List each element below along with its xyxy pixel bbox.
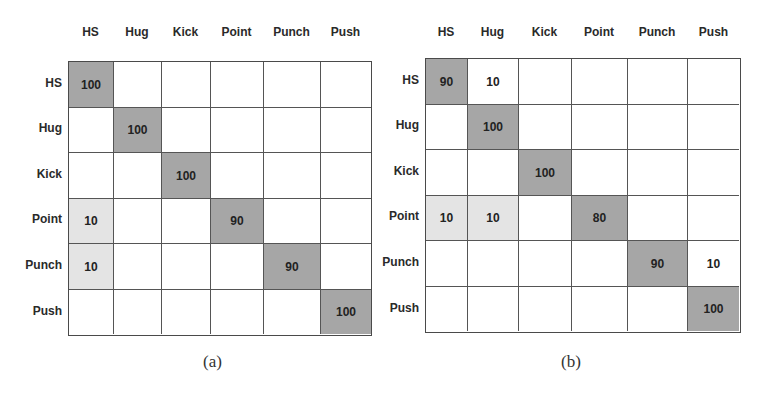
matrix-cell: 90 — [628, 241, 688, 287]
matrix-cell — [628, 59, 688, 105]
matrix-cell — [572, 105, 628, 150]
row-header: Hug — [360, 118, 419, 134]
matrix-grid: 90 10 100 100 10 10 80 90 10 — [425, 58, 741, 333]
matrix-cell — [426, 105, 468, 150]
matrix-cell: 100 — [688, 287, 739, 331]
matrix-cell — [468, 241, 519, 287]
matrix-cell — [628, 105, 688, 150]
matrix-cell — [519, 196, 572, 241]
row-header: Point — [360, 209, 419, 225]
row-header: Punch — [360, 255, 419, 271]
matrix-cell — [426, 150, 468, 196]
matrix-cell — [688, 59, 739, 105]
matrix-cell — [519, 241, 572, 287]
matrix-cell — [426, 287, 468, 331]
matrix-cell — [426, 241, 468, 287]
col-header: HS — [425, 25, 467, 41]
matrix-cell — [572, 287, 628, 331]
matrix-cell — [688, 105, 739, 150]
matrix-cell — [572, 150, 628, 196]
matrix-cell: 10 — [426, 196, 468, 241]
panel-caption: (b) — [561, 352, 581, 372]
matrix-cell — [628, 287, 688, 331]
matrix-cell — [468, 287, 519, 331]
matrix-cell — [468, 150, 519, 196]
matrix-cell — [519, 105, 572, 150]
matrix-cell — [572, 59, 628, 105]
col-header: Push — [687, 25, 740, 41]
col-header: Punch — [627, 25, 687, 41]
matrix-cell — [572, 241, 628, 287]
matrix-cell: 80 — [572, 196, 628, 241]
matrix-cell — [688, 196, 739, 241]
confusion-matrix-b: HS Hug Kick Point Punch Push HS Hug Kick… — [0, 0, 759, 409]
matrix-cell: 10 — [468, 196, 519, 241]
matrix-cell: 100 — [468, 105, 519, 150]
col-header: Kick — [518, 25, 571, 41]
row-header: Push — [360, 301, 419, 317]
matrix-cell: 100 — [519, 150, 572, 196]
matrix-cell: 10 — [688, 241, 739, 287]
row-header: HS — [360, 73, 419, 89]
matrix-cell: 90 — [426, 59, 468, 105]
matrix-cell — [519, 59, 572, 105]
matrix-cell — [628, 150, 688, 196]
matrix-cell — [628, 196, 688, 241]
matrix-cell — [519, 287, 572, 331]
col-header: Point — [571, 25, 627, 41]
row-header: Kick — [360, 164, 419, 180]
matrix-cell: 10 — [468, 59, 519, 105]
col-header: Hug — [467, 25, 518, 41]
matrix-cell — [688, 150, 739, 196]
